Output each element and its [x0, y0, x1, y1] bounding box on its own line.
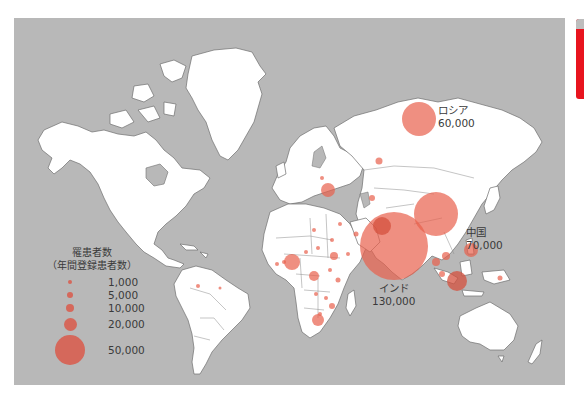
legend-dot-icon [64, 318, 77, 331]
callout-india-value: 130,000 [372, 295, 415, 308]
legend-title: 罹患者数 [32, 246, 152, 259]
bubble-ukraine [321, 183, 335, 197]
madagascar [346, 290, 356, 316]
callout-china-value: 70,000 [466, 239, 503, 252]
caribbean [180, 244, 208, 258]
legend-subtitle: （年間登録患者数） [32, 259, 152, 272]
legend-item: 20,000 [32, 316, 145, 332]
callout-russia: ロシア 60,000 [438, 104, 475, 130]
tasmania [498, 356, 504, 362]
legend-dot-icon [66, 304, 74, 312]
bubble-russia [402, 102, 436, 136]
australia [458, 302, 518, 350]
legend: 罹患者数 （年間登録患者数） 1,000 5,000 10,000 20,000… [32, 246, 182, 272]
greenland [186, 48, 266, 160]
callout-russia-name: ロシア [438, 104, 475, 117]
world-map: ロシア 60,000 中国 70,000 インド 130,000 罹患者数 （年… [14, 18, 565, 385]
legend-item: 10,000 [32, 302, 145, 314]
bubble-indonesia [447, 271, 467, 291]
legend-dot-icon [68, 280, 72, 284]
legend-item: 50,000 [32, 334, 145, 366]
bubble-south-africa [312, 314, 324, 326]
legend-dot-icon [67, 292, 73, 298]
callout-china: 中国 70,000 [466, 226, 503, 252]
south-america [174, 266, 250, 374]
callout-china-name: 中国 [466, 226, 503, 239]
side-tab-cap [576, 19, 584, 29]
legend-item: 1,000 [32, 276, 138, 288]
legend-dot-icon [55, 335, 85, 365]
side-tab[interactable] [576, 19, 584, 99]
callout-russia-value: 60,000 [438, 117, 475, 130]
bubble-india [360, 212, 428, 280]
callout-india-name: インド [372, 282, 415, 295]
legend-item: 5,000 [32, 289, 138, 301]
new-zealand [528, 340, 542, 364]
callout-india: インド 130,000 [372, 282, 415, 308]
bubble-nigeria [284, 254, 300, 270]
arctic-islands [110, 60, 186, 128]
